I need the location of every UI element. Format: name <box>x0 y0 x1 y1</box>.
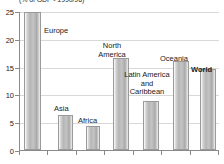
y-tick-label-15: 15 <box>0 63 14 72</box>
bar-oceania <box>173 61 189 151</box>
y-tick-label-5: 5 <box>0 119 14 128</box>
bar-label-africa: Africa <box>78 117 97 126</box>
y-axis: 25 20 15 10 5 0 <box>0 0 19 164</box>
y-tick-label-10: 10 <box>0 91 14 100</box>
x-tick-4 <box>133 151 134 155</box>
chart-subtitle: (% of GDP - 1990/96) <box>19 0 84 3</box>
x-tick-6 <box>190 151 191 155</box>
bar-latin-america <box>143 101 159 150</box>
x-tick-0 <box>19 151 20 155</box>
x-tick-1 <box>47 151 48 155</box>
x-tick-7 <box>218 151 219 155</box>
x-tick-5 <box>161 151 162 155</box>
bar-europe <box>24 12 41 150</box>
bar-label-latin-america: Latin America and Caribbean <box>122 71 172 97</box>
x-tick-3 <box>104 151 105 155</box>
bar-label-europe: Europe <box>44 27 68 36</box>
bar-label-world: World <box>191 66 212 75</box>
y-tick-label-25: 25 <box>0 8 14 17</box>
bar-label-asia: Asia <box>54 105 69 114</box>
bar-label-latin-america-line3: Caribbean <box>122 88 172 97</box>
x-tick-2 <box>76 151 77 155</box>
bar-africa <box>86 126 100 151</box>
bar-chart: (% of GDP - 1990/96) 25 20 15 10 5 0 <box>0 0 224 164</box>
bar-asia <box>58 115 73 150</box>
bar-label-north-america-line2: America <box>92 51 132 60</box>
bar-world <box>200 69 216 150</box>
y-tick-label-20: 20 <box>0 35 14 44</box>
bar-label-north-america: North America <box>92 42 132 59</box>
bar-label-oceania: Oceania <box>160 55 188 64</box>
y-tick-label-0: 0 <box>0 147 14 156</box>
gridline-25 <box>20 12 219 13</box>
